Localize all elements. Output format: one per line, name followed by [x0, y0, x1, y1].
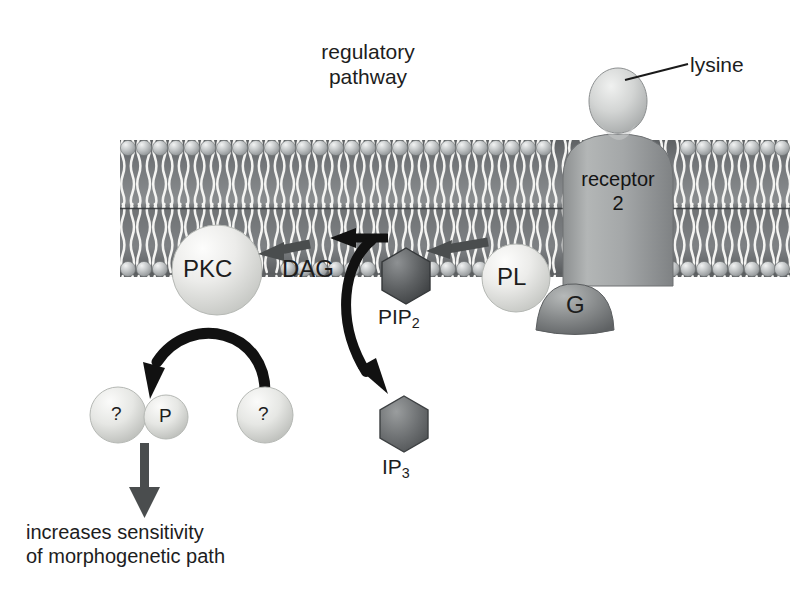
- receptor-label-line-1: receptor: [558, 168, 678, 192]
- pip2-label: PIP2: [378, 305, 420, 332]
- dag-label: DAG: [282, 255, 334, 283]
- outcome-line-2: of morphogenetic path: [26, 545, 225, 569]
- ip3-label: IP3: [382, 455, 410, 482]
- lysine-leader-line: [625, 64, 688, 80]
- outcome-label: increases sensitivity of morphogenetic p…: [26, 521, 225, 568]
- ip3-label-subscript: 3: [402, 465, 410, 481]
- question-right-label: ?: [258, 403, 269, 425]
- pkc-label: PKC: [183, 255, 232, 283]
- outcome-line-1: increases sensitivity: [26, 521, 225, 545]
- question-left-label: ?: [111, 403, 122, 425]
- diagram-title: regulatory pathway: [278, 40, 458, 90]
- lysine-node[interactable]: [589, 68, 647, 133]
- title-line-1: regulatory: [278, 40, 458, 65]
- pathway-svg: [0, 0, 809, 607]
- diagram-canvas: regulatory pathway lysine receptor 2 PKC…: [0, 0, 809, 607]
- lysine-label: lysine: [690, 53, 744, 78]
- arrow-to-outcome: [129, 443, 160, 518]
- pip2-label-base: PIP: [378, 305, 412, 328]
- phospho-label: P: [159, 405, 172, 427]
- receptor-label: receptor 2: [558, 168, 678, 215]
- ip3-label-base: IP: [382, 455, 402, 478]
- arrow-pkc-to-phospho: [143, 333, 265, 399]
- title-line-2: pathway: [278, 65, 458, 90]
- ip3-node[interactable]: [380, 396, 428, 452]
- receptor-label-line-2: 2: [558, 192, 678, 216]
- pip2-label-subscript: 2: [412, 315, 420, 331]
- pl-label: PL: [497, 263, 526, 291]
- g-label: G: [566, 291, 585, 319]
